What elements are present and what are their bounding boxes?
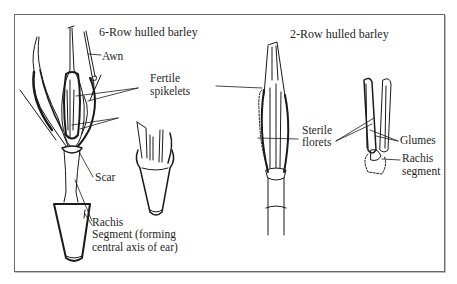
label-glumes: Glumes	[400, 134, 436, 146]
label-awn: Awn	[102, 50, 123, 62]
leader-lines	[72, 54, 400, 225]
label-scar: Scar	[95, 171, 115, 183]
two-row-title: 2-Row hulled barley	[290, 28, 389, 40]
label-rachis-segment-1: Rachis	[402, 152, 433, 164]
label-rachis-segment-2: segment	[402, 165, 440, 177]
six-row-title: 6-Row hulled barley	[99, 26, 198, 38]
label-sterile-2: florets	[302, 136, 331, 148]
six-row-spikelet-drawing	[20, 26, 101, 261]
label-fertile-1: Fertile	[150, 72, 180, 84]
label-rachis-1: Rachis	[92, 216, 123, 228]
label-sterile-1: Sterile	[302, 124, 332, 136]
label-fertile-2: spikelets	[150, 85, 190, 97]
label-rachis-2: Segment (forming	[92, 228, 176, 240]
six-row-lateral-spikelet-drawing	[136, 122, 173, 215]
barley-illustration	[0, 0, 457, 284]
label-rachis-3: central axis of ear)	[92, 241, 178, 253]
